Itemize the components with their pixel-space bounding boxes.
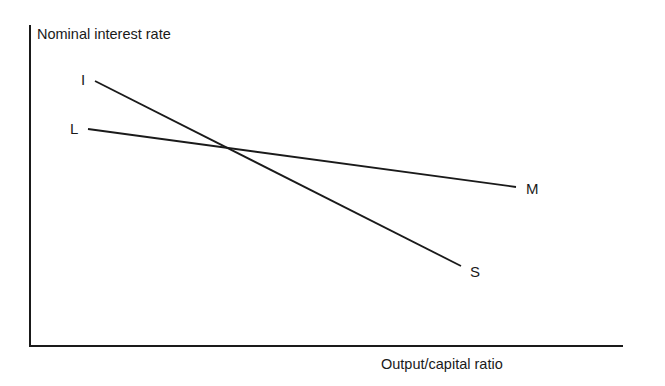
lm-end-label: M	[526, 181, 539, 196]
is-curve	[95, 81, 461, 266]
diagram-canvas	[0, 0, 665, 386]
lm-start-label: L	[70, 121, 78, 136]
is-end-label: S	[470, 264, 480, 279]
y-axis-label: Nominal interest rate	[37, 27, 171, 42]
is-start-label: I	[81, 72, 85, 87]
lm-curve	[88, 129, 516, 187]
x-axis-label: Output/capital ratio	[381, 357, 503, 372]
